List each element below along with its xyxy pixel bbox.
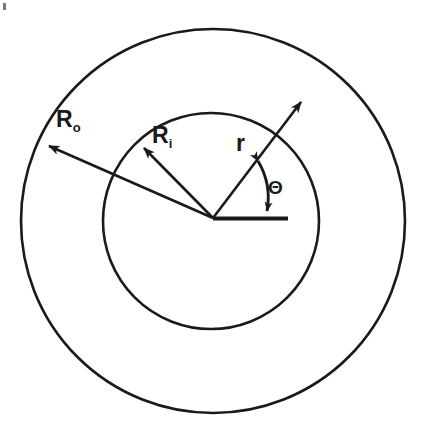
label-outer-radius-base: R bbox=[56, 106, 73, 132]
annulus-polar-coordinate-diagram bbox=[0, 0, 422, 442]
label-inner-radius: Ri bbox=[152, 124, 172, 147]
inner-radius-arrow bbox=[144, 148, 213, 218]
inner-circle bbox=[103, 113, 319, 329]
label-outer-radius-subscript: o bbox=[73, 120, 81, 135]
label-outer-radius: Ro bbox=[56, 108, 81, 131]
label-inner-radius-base: R bbox=[152, 122, 169, 148]
outer-circle bbox=[21, 29, 405, 413]
diagram-canvas: Ro Ri r Θ bbox=[0, 0, 422, 442]
label-angle-theta: Θ bbox=[268, 178, 283, 197]
outer-radius-arrow bbox=[49, 146, 213, 218]
label-radial-coordinate: r bbox=[236, 132, 245, 155]
label-inner-radius-subscript: i bbox=[169, 136, 173, 151]
label-radial-coordinate-base: r bbox=[236, 130, 245, 156]
theta-arc bbox=[258, 161, 268, 211]
radial-coordinate-arrow bbox=[213, 102, 301, 218]
